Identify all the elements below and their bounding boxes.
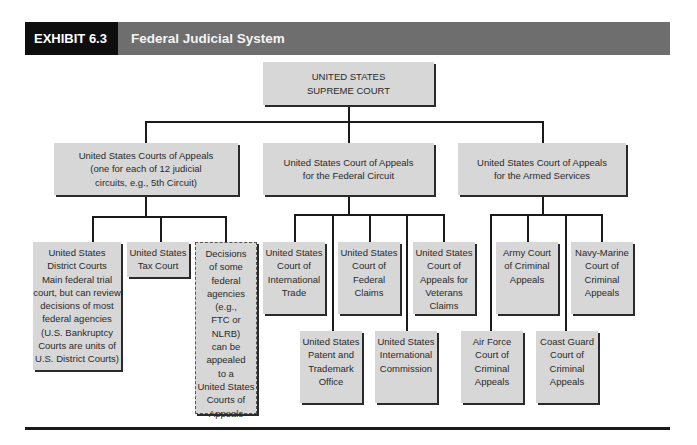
federal-circuit-box: United States Court of Appeals for the F… — [263, 143, 434, 195]
veterans-claims-label: United States Court of Appeals for Veter… — [415, 246, 472, 312]
army-box: Army Court of Criminal Appeals — [496, 242, 558, 314]
international-commission-label: United States International Commission — [377, 335, 434, 375]
tax-court-box: United States Tax Court — [127, 242, 189, 277]
federal-circuit-label: United States Court of Appeals for the F… — [284, 156, 414, 183]
connector — [160, 216, 162, 242]
connector — [348, 105, 350, 122]
connector — [294, 214, 296, 242]
connector — [369, 214, 371, 242]
connector — [332, 214, 334, 331]
tax-court-label: United States Tax Court — [129, 246, 186, 273]
district-courts-label: United States District Courts Main feder… — [33, 246, 121, 366]
connector — [145, 121, 147, 143]
bottom-rule — [25, 427, 670, 430]
connector — [145, 121, 543, 123]
connector — [542, 196, 544, 215]
courts-of-appeals-box: United States Courts of Appeals (one for… — [54, 143, 238, 195]
army-label: Army Court of Criminal Appeals — [503, 246, 551, 286]
connector — [542, 121, 544, 143]
supreme-court-label: UNITED STATES SUPREME COURT — [307, 70, 390, 97]
federal-claims-box: United States Court of Federal Claims — [338, 242, 400, 314]
connector — [92, 216, 94, 242]
connector — [527, 214, 529, 242]
supreme-court-box: UNITED STATES SUPREME COURT — [263, 62, 434, 105]
coast-guard-label: Coast Guard Court of Criminal Appeals — [540, 335, 594, 388]
air-force-label: Air Force Court of Criminal Appeals — [473, 335, 512, 388]
exhibit-title: Federal Judicial System — [118, 22, 670, 55]
agency-decisions-label: Decisions of some federal agencies (e.g.… — [196, 247, 256, 420]
international-commission-box: United States International Commission — [375, 331, 437, 403]
connector — [490, 214, 602, 216]
navy-marine-box: Navy-Marine Court of Criminal Appeals — [571, 242, 633, 314]
connector — [225, 216, 227, 242]
coast-guard-box: Coast Guard Court of Criminal Appeals — [536, 331, 598, 403]
international-trade-box: United States Court of International Tra… — [263, 242, 325, 314]
courts-of-appeals-label: United States Courts of Appeals (one for… — [79, 149, 214, 189]
veterans-claims-box: United States Court of Appeals for Veter… — [413, 242, 475, 314]
agency-decisions-box: Decisions of some federal agencies (e.g.… — [195, 242, 257, 414]
connector — [348, 196, 350, 215]
district-courts-box: United States District Courts Main feder… — [33, 242, 121, 370]
exhibit-title-text: Federal Judicial System — [131, 31, 285, 46]
connector — [145, 196, 147, 217]
armed-services-box: United States Court of Appeals for the A… — [458, 143, 626, 195]
connector — [565, 214, 567, 331]
connector — [92, 216, 226, 218]
exhibit-label-text: EXHIBIT 6.3 — [34, 31, 107, 46]
international-trade-label: United States Court of International Tra… — [265, 246, 322, 299]
exhibit-label: EXHIBIT 6.3 — [25, 22, 118, 55]
patent-trademark-box: United States Patent and Trademark Offic… — [300, 331, 362, 403]
connector — [490, 214, 492, 331]
connector — [406, 214, 408, 331]
connector — [601, 214, 603, 242]
navy-marine-label: Navy-Marine Court of Criminal Appeals — [575, 246, 629, 299]
air-force-box: Air Force Court of Criminal Appeals — [461, 331, 523, 403]
connector — [443, 214, 445, 242]
armed-services-label: United States Court of Appeals for the A… — [477, 156, 607, 183]
connector — [348, 121, 350, 143]
patent-trademark-label: United States Patent and Trademark Offic… — [302, 335, 359, 388]
federal-claims-label: United States Court of Federal Claims — [340, 246, 397, 299]
